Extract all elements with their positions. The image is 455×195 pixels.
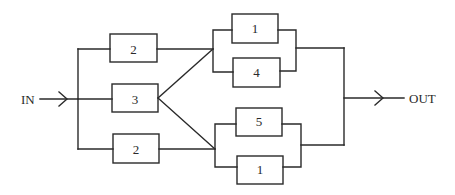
block-label: 1 <box>257 162 264 177</box>
block-label: 2 <box>133 142 140 157</box>
block-label: 3 <box>132 92 139 107</box>
wire-diagonal <box>158 49 213 98</box>
block-label: 2 <box>130 42 137 57</box>
block-label: 4 <box>253 65 260 80</box>
input-label: IN <box>21 92 35 107</box>
lower-group-left <box>215 124 237 167</box>
upper-group-right <box>278 30 296 71</box>
block-label: 1 <box>252 21 259 36</box>
lower-group-right <box>282 124 301 167</box>
output-label: OUT <box>409 91 436 106</box>
upper-group-left <box>213 30 233 72</box>
wire-diagonal <box>158 98 215 149</box>
reliability-diagram: 2 3 2 1 4 5 1 IN OUT <box>0 0 455 195</box>
block-label: 5 <box>256 114 263 129</box>
